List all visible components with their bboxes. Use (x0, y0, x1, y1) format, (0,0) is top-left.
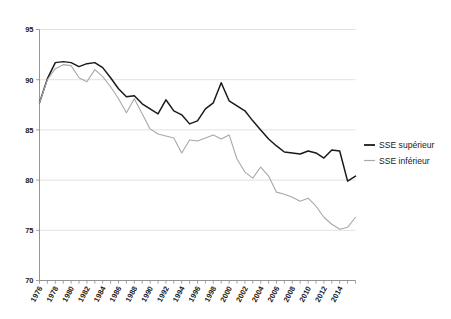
x-tick-label-2004: 2004 (250, 284, 266, 304)
x-tick-label-2010: 2010 (297, 285, 313, 304)
x-tick-labels: 1976197819801982198419861988199019921994… (29, 284, 345, 304)
x-tick-label-1996: 1996 (187, 285, 203, 304)
x-tick-label-1978: 1978 (44, 285, 60, 304)
y-tick-label-70: 70 (25, 276, 33, 285)
legend: SSE supérieurSSE inférieur (364, 140, 435, 166)
chart-screenshot: ·· · ·· 707580859095 1976197819801982198… (0, 0, 451, 319)
x-tick-label-1984: 1984 (92, 284, 108, 304)
x-tick-label-1980: 1980 (60, 285, 76, 304)
chart-svg: 707580859095 197619781980198219841986198… (0, 0, 451, 319)
legend-label-0: SSE supérieur (379, 140, 435, 150)
series-line-sse-inferieur (40, 65, 356, 230)
line-chart: 707580859095 197619781980198219841986198… (0, 0, 451, 319)
x-tick-label-2006: 2006 (266, 285, 282, 304)
series-lines (40, 62, 356, 230)
y-tick-label-85: 85 (25, 126, 33, 135)
x-tick-label-1998: 1998 (202, 285, 218, 304)
y-tick-label-75: 75 (25, 226, 33, 235)
x-tick-label-2008: 2008 (281, 285, 297, 304)
x-tick-label-1976: 1976 (29, 285, 45, 304)
x-tick-label-2002: 2002 (234, 285, 250, 304)
y-axis (36, 30, 40, 281)
x-tick-label-2000: 2000 (218, 285, 234, 304)
y-tick-label-95: 95 (25, 25, 33, 34)
y-tick-label-90: 90 (25, 76, 33, 85)
x-axis (40, 281, 356, 284)
y-tick-label-80: 80 (25, 176, 33, 185)
x-tick-label-2012: 2012 (313, 285, 329, 304)
y-tick-labels: 707580859095 (25, 25, 33, 285)
x-tick-label-1986: 1986 (108, 285, 124, 304)
gridlines (40, 30, 356, 281)
x-tick-label-1994: 1994 (171, 284, 187, 304)
x-tick-label-1992: 1992 (155, 285, 171, 304)
x-tick-label-1988: 1988 (123, 285, 139, 304)
x-tick-label-1982: 1982 (76, 285, 92, 304)
x-tick-label-1990: 1990 (139, 285, 155, 304)
legend-label-1: SSE inférieur (379, 156, 430, 166)
x-tick-label-2014: 2014 (329, 284, 345, 304)
